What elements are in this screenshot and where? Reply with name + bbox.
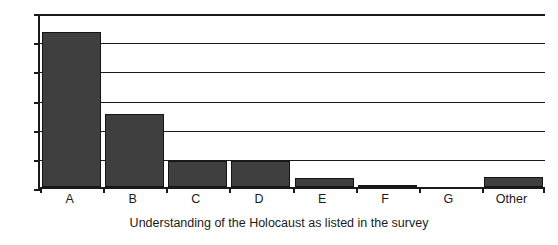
bar-slot <box>293 12 356 187</box>
x-axis-title: Understanding of the Holocaust as listed… <box>0 216 558 230</box>
x-axis-tick <box>543 187 545 193</box>
bars-group <box>40 12 545 187</box>
bar-slot <box>40 12 103 187</box>
x-axis-label-f: F <box>354 192 417 206</box>
x-axis-label-d: D <box>227 192 290 206</box>
plot-area <box>38 14 543 189</box>
x-axis-label-a: A <box>38 192 101 206</box>
bar-slot <box>103 12 166 187</box>
x-axis-label-g: G <box>417 192 480 206</box>
bar-a <box>42 32 101 187</box>
x-axis-label-e: E <box>291 192 354 206</box>
x-axis-label-b: B <box>101 192 164 206</box>
bar-c <box>168 161 227 187</box>
bar-d <box>231 161 290 187</box>
bar-slot <box>229 12 292 187</box>
bar-slot <box>419 12 482 187</box>
bar-e <box>295 178 354 187</box>
bar-slot <box>356 12 419 187</box>
bar-slot <box>166 12 229 187</box>
bar-other <box>484 177 543 187</box>
x-axis-label-other: Other <box>480 192 543 206</box>
bar-f <box>358 185 417 187</box>
bar-b <box>105 114 164 187</box>
x-axis-labels: ABCDEFGOther <box>38 192 543 206</box>
x-axis-label-c: C <box>164 192 227 206</box>
bar-chart-figure: 0102030405060 ABCDEFGOther Understanding… <box>0 0 558 245</box>
bar-slot <box>482 12 545 187</box>
